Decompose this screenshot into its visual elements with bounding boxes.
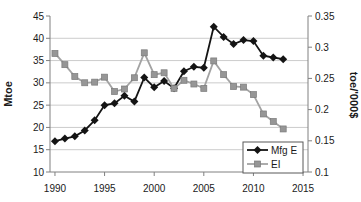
square-marker bbox=[72, 74, 78, 80]
square-marker bbox=[52, 50, 58, 56]
legend-label-mfg-e: Mfg E bbox=[271, 145, 297, 156]
right-axis-title: toe/'000$ bbox=[348, 72, 360, 119]
left-axis-tick-label: 10 bbox=[33, 167, 45, 178]
square-marker bbox=[161, 70, 167, 76]
diamond-marker bbox=[180, 67, 188, 75]
legend-label-ei: EI bbox=[271, 159, 280, 170]
square-marker bbox=[260, 111, 266, 117]
diamond-marker bbox=[51, 137, 59, 145]
right-axis-tick-label: 0.25 bbox=[315, 73, 335, 84]
diamond-marker bbox=[240, 36, 248, 44]
square-marker bbox=[131, 75, 137, 81]
square-marker bbox=[181, 77, 187, 83]
square-marker bbox=[280, 126, 286, 132]
diamond-marker bbox=[200, 64, 208, 72]
x-axis-tick-label: 2010 bbox=[242, 183, 265, 194]
left-axis-tick-label: 30 bbox=[33, 77, 45, 88]
square-marker bbox=[141, 50, 147, 56]
square-marker bbox=[82, 80, 88, 86]
x-axis-tick-label: 1995 bbox=[93, 183, 116, 194]
square-marker bbox=[221, 72, 227, 78]
x-axis-tick-label: 2015 bbox=[292, 183, 315, 194]
right-axis-tick-label: 0.35 bbox=[315, 11, 335, 22]
square-marker bbox=[112, 89, 118, 95]
square-marker bbox=[270, 118, 276, 124]
square-marker bbox=[191, 81, 197, 87]
square-marker bbox=[241, 84, 247, 90]
x-axis-tick-label: 2005 bbox=[193, 183, 216, 194]
left-axis-title: Mtoe bbox=[2, 81, 14, 107]
series-line-ei bbox=[55, 53, 283, 129]
square-marker bbox=[255, 161, 261, 167]
line-chart: 10152025303540450.10.150.20.250.30.35199… bbox=[0, 0, 361, 202]
square-marker bbox=[151, 72, 157, 78]
x-axis-tick-label: 2000 bbox=[143, 183, 166, 194]
square-marker bbox=[171, 85, 177, 91]
series-line-mfg-e bbox=[55, 27, 283, 142]
left-axis-tick-label: 25 bbox=[33, 100, 45, 111]
diamond-marker bbox=[71, 132, 79, 140]
right-axis-tick-label: 0.15 bbox=[315, 135, 335, 146]
right-axis-tick-label: 0.2 bbox=[315, 104, 329, 115]
left-axis-tick-label: 15 bbox=[33, 144, 45, 155]
x-axis-tick-label: 1990 bbox=[44, 183, 67, 194]
square-marker bbox=[211, 58, 217, 64]
left-axis-tick-label: 35 bbox=[33, 55, 45, 66]
left-axis-tick-label: 45 bbox=[33, 11, 45, 22]
square-marker bbox=[201, 85, 207, 91]
square-marker bbox=[102, 74, 108, 80]
diamond-marker bbox=[130, 98, 138, 106]
diamond-marker bbox=[190, 63, 198, 71]
chart-figure: 10152025303540450.10.150.20.250.30.35199… bbox=[0, 0, 361, 202]
square-marker bbox=[231, 84, 237, 90]
square-marker bbox=[121, 86, 127, 92]
square-marker bbox=[92, 79, 98, 85]
square-marker bbox=[62, 62, 68, 68]
square-marker bbox=[250, 92, 256, 98]
diamond-marker bbox=[279, 55, 287, 63]
left-axis-tick-label: 20 bbox=[33, 122, 45, 133]
diamond-marker bbox=[61, 135, 69, 143]
left-axis-tick-label: 40 bbox=[33, 33, 45, 44]
right-axis-tick-label: 0.1 bbox=[315, 167, 329, 178]
right-axis-tick-label: 0.3 bbox=[315, 42, 329, 53]
